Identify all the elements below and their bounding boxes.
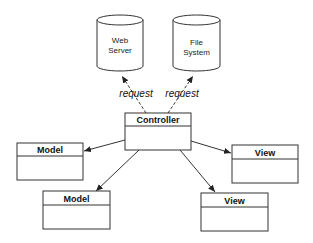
view-title-1: View — [255, 148, 276, 158]
model-title-2: Model — [64, 194, 90, 204]
model-title-1: Model — [37, 145, 63, 155]
arrow-controller-to-view-1 — [191, 141, 231, 153]
model-class-box-2: Model — [43, 191, 110, 229]
model-class-box-1: Model — [17, 143, 83, 180]
request-label-file-system: request — [165, 88, 200, 99]
arrow-controller-to-model-2 — [96, 150, 139, 191]
file-system-label-line1: File — [190, 38, 203, 47]
web-server-datastore: Web Server — [97, 15, 143, 71]
view-title-2: View — [224, 196, 245, 206]
mvc-diagram: Web Server File System request request C… — [0, 0, 313, 243]
arrow-controller-to-model-1 — [84, 140, 125, 151]
arrow-controller-to-view-2 — [180, 150, 215, 192]
controller-title: Controller — [136, 115, 179, 125]
view-class-box-1: View — [232, 145, 298, 183]
file-system-label-line2: System — [183, 48, 210, 57]
controller-class-box: Controller — [125, 113, 191, 150]
web-server-label-line1: Web — [112, 36, 129, 45]
web-server-label-line2: Server — [108, 46, 132, 55]
file-system-datastore: File System — [173, 15, 220, 71]
view-class-box-2: View — [201, 193, 268, 231]
request-label-web-server: request — [119, 88, 154, 99]
